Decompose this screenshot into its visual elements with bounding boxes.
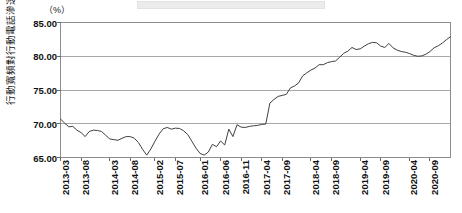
- x-tick-label: 2014-03: [108, 160, 119, 195]
- x-tick-label: 2019-04: [359, 160, 370, 195]
- chart-figure: （%） 行動寬頻對行動電話滲透率 65.0070.0075.0080.0085.…: [0, 0, 462, 213]
- x-tick-label: 2013-03: [59, 160, 70, 195]
- x-tick-label: 2013-08: [80, 160, 91, 195]
- x-tick-label: 2015-02: [153, 160, 164, 195]
- x-tick-label: 2016-01: [199, 160, 210, 195]
- y-tick-label: 85.00: [33, 17, 57, 28]
- x-tick-label: 2018-04: [309, 160, 320, 195]
- x-axis-tick-labels: 2013-032013-082014-032014-082015-022015-…: [0, 160, 462, 213]
- x-tick-label: 2017-04: [260, 160, 271, 195]
- top-banner-strip: [137, 1, 325, 9]
- y-tick-label: 70.00: [33, 118, 57, 129]
- x-tick-label: 2016-11: [240, 160, 251, 194]
- x-tick-label: 2017-09: [281, 160, 292, 195]
- data-series-line: [61, 37, 451, 155]
- x-tick-label: 2018-09: [330, 160, 341, 195]
- x-tick-label: 2016-06: [219, 160, 230, 195]
- y-tick-label: 80.00: [33, 51, 57, 62]
- y-tick-label: 75.00: [33, 85, 57, 96]
- x-tick-label: 2015-07: [174, 160, 185, 195]
- x-tick-label: 2019-09: [379, 160, 390, 195]
- x-tick-label: 2014-08: [129, 160, 140, 195]
- x-tick-label: 2020-04: [408, 160, 419, 195]
- x-tick-label: 2020-09: [428, 160, 439, 195]
